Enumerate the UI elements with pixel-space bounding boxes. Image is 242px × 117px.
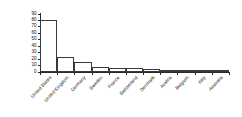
x-tick-mark — [229, 72, 230, 75]
y-tick-label: 0 — [34, 69, 37, 75]
y-tick-label: 30 — [31, 49, 36, 55]
bar — [195, 70, 212, 72]
bar — [143, 69, 160, 72]
x-axis-line — [40, 72, 230, 73]
x-tick-mark — [74, 72, 75, 75]
bar — [177, 70, 194, 72]
x-tick-mark — [160, 72, 161, 75]
bar — [92, 67, 109, 72]
y-tick-label: 10 — [31, 62, 36, 68]
y-tick-label: 20 — [31, 56, 36, 62]
bar — [74, 62, 91, 72]
bar — [109, 68, 126, 73]
x-tick-mark — [177, 72, 178, 75]
x-tick-mark — [195, 72, 196, 75]
x-tick-mark — [40, 72, 41, 75]
x-tick-mark — [92, 72, 93, 75]
bar — [160, 70, 177, 72]
bar — [57, 57, 74, 72]
bar-chart: Number of Winners 0102030405060708090 Un… — [0, 0, 242, 117]
x-tick-mark — [143, 72, 144, 75]
x-tick-mark — [126, 72, 127, 75]
x-tick-mark — [109, 72, 110, 75]
bar — [212, 70, 229, 72]
x-tick-mark — [57, 72, 58, 75]
bar — [126, 68, 143, 73]
x-axis-labels: United StatesUnited KingdomGermanySweden… — [0, 0, 242, 45]
x-tick-mark — [212, 72, 213, 75]
